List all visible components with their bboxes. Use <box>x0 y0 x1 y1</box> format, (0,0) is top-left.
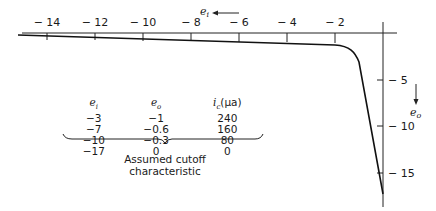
svg-text:ei: ei <box>200 5 210 19</box>
header-ic: ic(μa) <box>195 97 260 113</box>
arrow-down-icon <box>414 84 419 105</box>
y-tick-label: − 5 <box>388 74 408 87</box>
cutoff-data-table: ei eo ic(μa) −3 −1 240 −7 −0.6 160 −10 −… <box>60 97 260 157</box>
x-tick-label: − 8 <box>181 16 201 29</box>
svg-text:eo: eo <box>410 106 422 120</box>
x-tick-label: − 2 <box>325 16 345 29</box>
header-eo: eo <box>118 97 195 113</box>
y-tick-labels: − 5 − 10 − 15 <box>388 74 415 180</box>
caption-line-1: Assumed cutoff <box>90 153 240 165</box>
y-axis-ticks <box>377 80 383 173</box>
header-ei: ei <box>70 97 118 113</box>
x-tick-label: − 12 <box>82 16 109 29</box>
caption-line-2: characteristic <box>90 165 240 177</box>
y-tick-label: − 15 <box>388 167 415 180</box>
x-tick-label: − 4 <box>277 16 297 29</box>
x-tick-label: − 6 <box>229 16 249 29</box>
x-tick-label: − 14 <box>34 16 61 29</box>
y-tick-label: − 10 <box>388 120 415 133</box>
table-caption: Assumed cutoff characteristic <box>90 153 240 177</box>
x-tick-label: − 10 <box>130 16 157 29</box>
table-header-row: ei eo ic(μa) <box>60 97 260 113</box>
x-tick-labels: − 14 − 12 − 10 − 8 − 6 − 4 − 2 <box>34 16 345 29</box>
y-axis-variable-label: eo <box>410 84 422 120</box>
arrow-left-icon <box>212 11 239 16</box>
